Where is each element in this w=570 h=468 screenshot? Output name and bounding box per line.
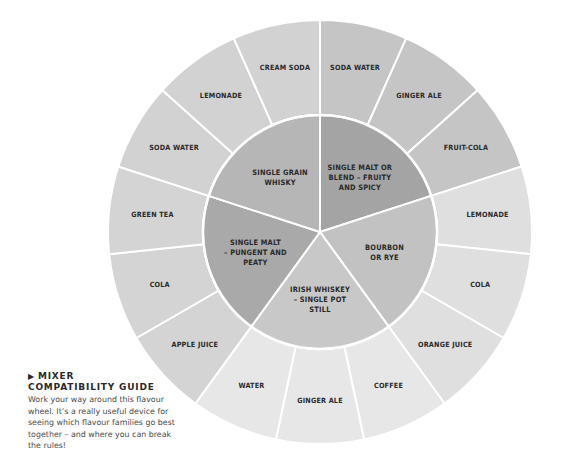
guide-title-line1: MIXER — [38, 371, 74, 381]
mixer-label-cola: COLA — [470, 280, 490, 289]
mixer-label-cola: COLA — [150, 280, 170, 289]
mixer-label-orange-juice: ORANGE JUICE — [418, 340, 473, 349]
mixer-label-ginger-ale: GINGER ALE — [396, 91, 442, 100]
mixer-label-soda-water: SODA WATER — [149, 143, 199, 152]
mixer-label-ginger-ale: GINGER ALE — [297, 396, 343, 405]
mixer-compatibility-guide: ▶MIXER COMPATIBILITY GUIDE Work your way… — [28, 371, 178, 452]
mixer-label-cream-soda: CREAM SODA — [260, 63, 310, 72]
mixer-label-water: WATER — [238, 381, 264, 390]
mixer-label-lemonade: LEMONADE — [200, 91, 242, 100]
mixer-label-green-tea: GREEN TEA — [131, 210, 173, 219]
whisky-label-bourbon-or-rye: BOURBONOR RYE — [365, 243, 404, 262]
guide-title: ▶MIXER COMPATIBILITY GUIDE — [28, 371, 178, 393]
mixer-label-lemonade: LEMONADE — [466, 210, 508, 219]
mixer-label-soda-water: SODA WATER — [330, 63, 380, 72]
mixer-label-apple-juice: APPLE JUICE — [171, 340, 218, 349]
mixer-label-fruit-cola: FRUIT-COLA — [444, 143, 488, 152]
triangle-arrow-icon: ▶ — [28, 372, 35, 381]
guide-title-line2: COMPATIBILITY GUIDE — [28, 382, 155, 392]
guide-description: Work your way around this flavour wheel.… — [28, 394, 178, 452]
mixer-label-coffee: COFFEE — [374, 381, 403, 390]
